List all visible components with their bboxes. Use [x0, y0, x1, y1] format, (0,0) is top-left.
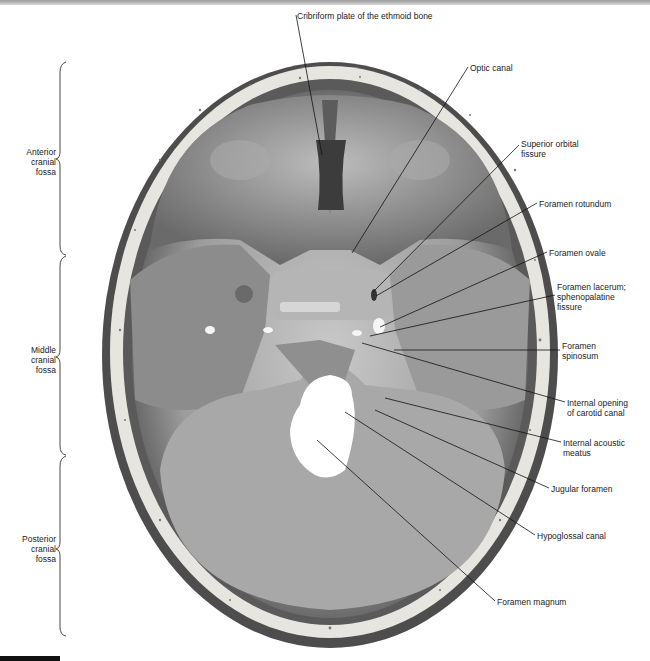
bracket-anterior — [56, 62, 66, 255]
label-posterior-cranial-fossa: Posterior cranial fossa — [0, 534, 56, 564]
label-foramen-spinosum: Foramen spinosum — [562, 341, 598, 361]
label-foramen-magnum: Foramen magnum — [497, 597, 566, 607]
label-jugular-foramen: Jugular foramen — [551, 484, 612, 494]
label-middle-cranial-fossa: Middle cranial fossa — [0, 345, 56, 375]
label-foramen-ovale: Foramen ovale — [549, 248, 606, 258]
label-internal-acoustic-meatus: Internal acoustic meatus — [563, 438, 625, 458]
label-cribriform-plate: Cribriform plate of the ethmoid bone — [297, 11, 433, 21]
bracket-middle — [56, 256, 66, 455]
label-foramen-lacerum: Foramen lacerum; sphenopalatine fissure — [557, 282, 626, 312]
label-anterior-cranial-fossa: Anterior cranial fossa — [0, 147, 56, 177]
label-optic-canal: Optic canal — [470, 63, 513, 73]
label-foramen-rotundum: Foramen rotundum — [539, 199, 611, 209]
region-brackets — [56, 62, 66, 636]
bracket-posterior — [56, 456, 66, 636]
bottom-bar — [0, 656, 60, 661]
label-superior-orbital-fissure: Superior orbital fissure — [521, 139, 579, 159]
label-carotid-canal: Internal opening of carotid canal — [567, 398, 628, 418]
skull-base-illustration — [0, 0, 650, 661]
label-hypoglossal-canal: Hypoglossal canal — [537, 531, 606, 541]
